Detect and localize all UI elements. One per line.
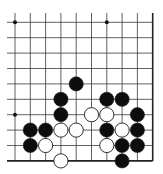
star-point [105, 20, 109, 24]
white-stone[interactable] [100, 138, 114, 152]
black-stone[interactable] [115, 154, 129, 168]
white-stone[interactable] [54, 123, 68, 137]
black-stone[interactable] [54, 108, 68, 122]
black-stone[interactable] [130, 138, 144, 152]
star-point [13, 113, 17, 117]
go-board[interactable] [0, 0, 163, 174]
black-stone[interactable] [69, 77, 83, 91]
black-stone[interactable] [23, 123, 37, 137]
black-stone[interactable] [130, 108, 144, 122]
black-stone[interactable] [115, 138, 129, 152]
black-stone[interactable] [100, 92, 114, 106]
stones [23, 77, 144, 168]
white-stone[interactable] [115, 123, 129, 137]
white-stone[interactable] [69, 123, 83, 137]
black-stone[interactable] [54, 92, 68, 106]
white-stone[interactable] [100, 108, 114, 122]
star-point [13, 20, 17, 24]
black-stone[interactable] [39, 123, 53, 137]
black-stone[interactable] [23, 138, 37, 152]
black-stone[interactable] [130, 123, 144, 137]
black-stone[interactable] [100, 123, 114, 137]
black-stone[interactable] [115, 92, 129, 106]
white-stone[interactable] [39, 138, 53, 152]
white-stone[interactable] [84, 108, 98, 122]
white-stone[interactable] [54, 154, 68, 168]
